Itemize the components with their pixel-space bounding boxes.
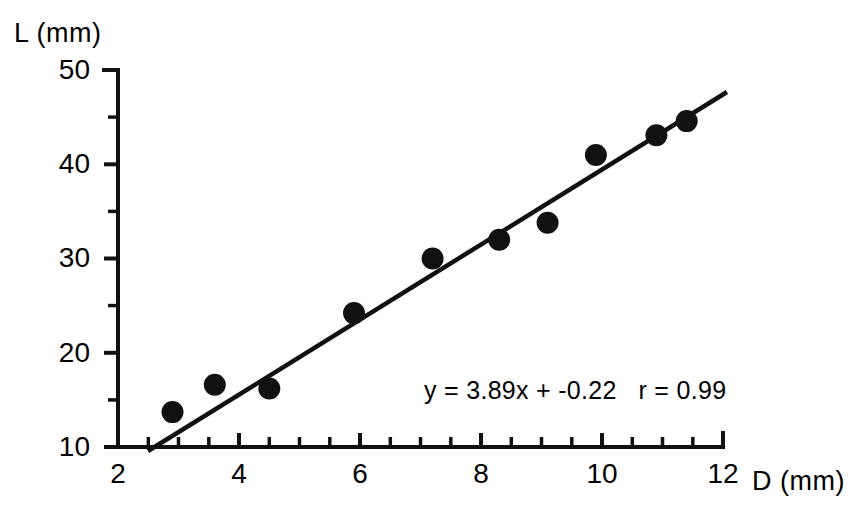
data-point	[422, 248, 444, 270]
y-axis-major-ticks	[104, 70, 118, 447]
data-point	[537, 212, 559, 234]
y-axis-title: L (mm)	[14, 18, 101, 49]
x-tick-label-2: 2	[88, 458, 148, 490]
x-tick-label-8: 8	[451, 458, 511, 490]
x-tick-label-4: 4	[209, 458, 269, 490]
data-point	[162, 401, 184, 423]
y-tick-label-20: 20	[30, 337, 90, 369]
x-axis-title: D (mm)	[752, 466, 845, 497]
data-point	[488, 229, 510, 251]
regression-equation-annotation: y = 3.89x + -0.22 r = 0.99	[424, 376, 726, 405]
y-tick-label-40: 40	[30, 148, 90, 180]
data-point	[258, 378, 280, 400]
y-tick-label-50: 50	[30, 54, 90, 86]
data-point	[585, 144, 607, 166]
x-tick-label-10: 10	[572, 458, 632, 490]
data-point	[204, 374, 226, 396]
x-tick-label-12: 12	[693, 458, 753, 490]
plot-canvas	[0, 0, 856, 524]
data-point	[343, 302, 365, 324]
scatter-plot-figure: L (mm) D (mm) 50 40 30 20 10 2 4 6 8 10 …	[0, 0, 856, 524]
y-tick-label-10: 10	[30, 431, 90, 463]
y-tick-label-30: 30	[30, 242, 90, 274]
data-point	[676, 110, 698, 132]
x-tick-label-6: 6	[330, 458, 390, 490]
data-point	[645, 124, 667, 146]
